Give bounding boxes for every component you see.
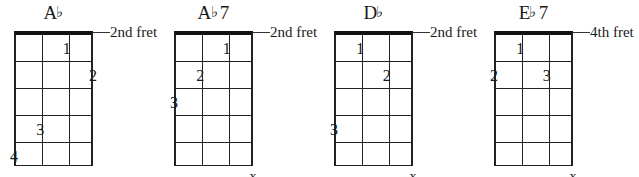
chord-name: D♭ [320, 2, 427, 23]
finger-number: 2 [380, 68, 394, 84]
finger-number: 2 [193, 68, 207, 84]
string-line [42, 35, 43, 165]
fretboard-grid [494, 31, 573, 166]
chord-diagram-sheet: A♭12342nd fretA♭71232nd fretxD♭1232nd fr… [0, 0, 639, 177]
chord-suffix: 7 [539, 2, 549, 23]
fret-line [176, 35, 251, 143]
finger-number: 1 [220, 41, 234, 57]
chord-diagram: E♭71234th fretx [480, 0, 639, 177]
finger-number: 2 [487, 68, 501, 84]
fretboard-grid [14, 31, 93, 166]
finger-number: 3 [540, 68, 554, 84]
fret-line [496, 35, 571, 143]
chord-name: E♭7 [480, 2, 587, 23]
muted-string-marker: x [407, 170, 419, 177]
chord-diagram: D♭1232nd fretx [320, 0, 480, 177]
string-line [389, 35, 390, 165]
chord-accidental-flat: ♭ [376, 4, 383, 20]
fret-label-leader-line [573, 32, 590, 33]
finger-number: 1 [60, 41, 74, 57]
fret-line [16, 35, 91, 143]
chord-accidental-flat: ♭ [56, 4, 63, 20]
muted-string-marker: x [567, 170, 579, 177]
chord-suffix: 7 [220, 2, 230, 23]
finger-number: 4 [7, 149, 21, 165]
fret-position-label: 2nd fret [110, 25, 157, 40]
fret-position-label: 2nd fret [430, 25, 477, 40]
string-line [549, 35, 550, 165]
finger-number: 1 [353, 41, 367, 57]
fretboard-grid [174, 31, 253, 166]
chord-diagram: A♭12342nd fret [0, 0, 160, 177]
chord-accidental-flat: ♭ [529, 4, 536, 20]
finger-number: 3 [167, 95, 181, 111]
fret-position-label: 4th fret [590, 25, 634, 40]
fret-label-leader-line [253, 32, 270, 33]
fret-label-leader-line [413, 32, 430, 33]
finger-number: 1 [513, 41, 527, 57]
finger-number: 3 [33, 122, 47, 138]
chord-accidental-flat: ♭ [211, 4, 218, 20]
finger-number: 3 [327, 122, 341, 138]
fret-label-leader-line [93, 32, 110, 33]
chord-name: A♭7 [160, 2, 267, 23]
fretboard-grid [334, 31, 413, 166]
string-line [202, 35, 203, 165]
fret-position-label: 2nd fret [270, 25, 317, 40]
chord-diagram: A♭71232nd fretx [160, 0, 320, 177]
chord-root: A [198, 2, 212, 23]
fret-line [336, 35, 411, 143]
finger-number: 2 [86, 68, 100, 84]
chord-name: A♭ [0, 2, 107, 23]
muted-string-marker: x [247, 170, 259, 177]
